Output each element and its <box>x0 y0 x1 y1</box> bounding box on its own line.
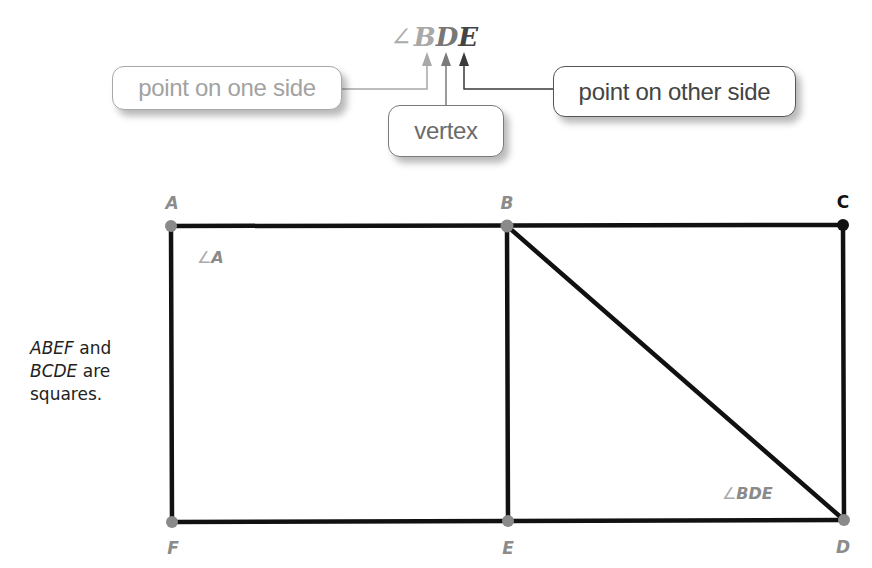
letter-d: D <box>436 22 459 52</box>
point-b <box>501 220 514 233</box>
arrow-up-icon <box>422 52 432 66</box>
letter-b: B <box>414 22 436 52</box>
callout-point-one-side: point on one side <box>112 66 342 110</box>
arrow-up-icon <box>459 52 469 66</box>
point-c <box>837 219 849 231</box>
point-d <box>838 514 850 526</box>
connector-vertex <box>441 52 451 105</box>
angle-bde-label: ∠BDE <box>722 484 773 503</box>
segment-bd <box>507 226 844 520</box>
callout-vertex: vertex <box>388 105 504 157</box>
segment-cd <box>843 225 844 520</box>
point-e <box>502 515 514 527</box>
letter-e: E <box>458 22 478 52</box>
point-a <box>165 220 177 232</box>
connector-other-side <box>459 52 553 89</box>
label-e: E <box>502 538 514 558</box>
segment-af <box>171 226 172 522</box>
label-b: B <box>501 193 514 213</box>
label-d: D <box>836 537 850 557</box>
angle-symbol-icon: ∠ <box>722 484 736 503</box>
label-f: F <box>167 538 179 558</box>
angle-symbol-icon: ∠ <box>197 248 211 267</box>
angle-bde-notation: ∠BDE <box>390 22 478 52</box>
angle-symbol-icon: ∠ <box>390 22 412 52</box>
squares-note: ABEF and BCDE are squares. <box>30 337 140 406</box>
segment-be <box>507 226 508 521</box>
label-a: A <box>165 193 178 213</box>
callout-point-other-side: point on other side <box>553 66 796 117</box>
label-c: C <box>837 192 849 212</box>
connector-one-side <box>342 52 432 89</box>
point-f <box>166 516 178 528</box>
figure-lines <box>171 225 844 522</box>
arrow-up-icon <box>441 52 451 66</box>
angle-a-label: ∠A <box>197 248 224 267</box>
